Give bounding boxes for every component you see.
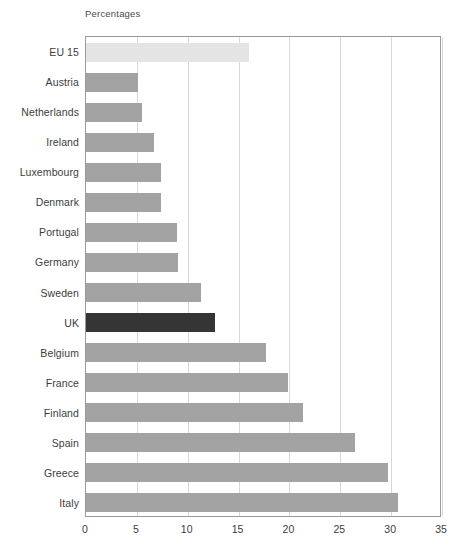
tick-label: 25 [333,523,345,535]
category-label: Luxembourg [0,166,79,178]
category-label: Italy [0,497,79,509]
tick-label: 5 [133,523,139,535]
axis-title: Percentages [85,8,141,19]
category-label: Portugal [0,226,79,238]
bar [86,283,201,302]
bar-band [86,193,440,212]
category-label: Netherlands [0,106,79,118]
bar-band [86,493,440,512]
category-axis-labels: EU 15AustriaNetherlandsIrelandLuxembourg… [0,36,79,517]
category-label: UK [0,317,79,329]
bar-band [86,43,440,62]
bar [86,163,161,182]
bar [86,43,249,62]
gridline [442,37,443,516]
bar [86,223,177,242]
category-label: Greece [0,467,79,479]
bar-series [86,37,440,516]
tick-label: 35 [435,523,447,535]
bar [86,433,355,452]
category-label: Spain [0,437,79,449]
category-label: Denmark [0,196,79,208]
tick-label: 20 [283,523,295,535]
bar [86,73,138,92]
bar [86,373,288,392]
value-axis-tick-labels: 05101520253035 [85,523,441,543]
category-label: France [0,377,79,389]
category-label: Finland [0,407,79,419]
plot-area [85,36,441,517]
category-label: Belgium [0,347,79,359]
bar-band [86,403,440,422]
tick-label: 10 [181,523,193,535]
bar [86,313,215,332]
bar-band [86,133,440,152]
category-label: Ireland [0,136,79,148]
category-label: Sweden [0,287,79,299]
bar [86,103,142,122]
category-label: Austria [0,76,79,88]
bar-band [86,103,440,122]
category-label: EU 15 [0,46,79,58]
bar-band [86,463,440,482]
bar [86,133,154,152]
category-label: Germany [0,256,79,268]
tick-label: 30 [384,523,396,535]
bar-chart: Percentages EU 15AustriaNetherlandsIrela… [0,0,464,560]
bar-band [86,313,440,332]
bar-band [86,253,440,272]
bar [86,403,303,422]
bar [86,493,398,512]
bar-band [86,223,440,242]
tick-label: 15 [232,523,244,535]
bar-band [86,163,440,182]
bar [86,463,388,482]
bar [86,253,178,272]
bar-band [86,433,440,452]
tick-label: 0 [82,523,88,535]
bar-band [86,343,440,362]
bar-band [86,373,440,392]
bar-band [86,73,440,92]
bar-band [86,283,440,302]
bar [86,343,266,362]
bar [86,193,161,212]
